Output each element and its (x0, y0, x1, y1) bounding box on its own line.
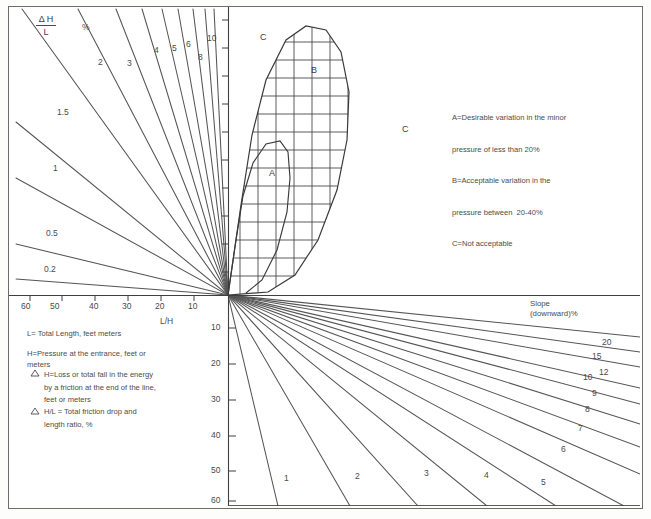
slope-heading-line1: Slope (530, 299, 550, 309)
y-tick-10: 10 (211, 322, 220, 332)
ray-label-6: 6 (186, 39, 191, 49)
slope-label-4: 4 (484, 470, 489, 480)
slope-label-7: 7 (578, 423, 583, 433)
criteria-note-line-1: A=Desirable variation in the minor (452, 113, 612, 124)
criteria-note-line-5: C=Not acceptable (452, 239, 612, 250)
legend-line-H-1: H=Pressure at the entrance, feet or (27, 348, 146, 359)
ray-label-0-2: 0.2 (44, 264, 56, 274)
y-tick-50: 50 (211, 465, 220, 475)
ray-label-4: 4 (154, 45, 159, 55)
legend-line-dH-2: by a friction at the end of the line, (44, 382, 156, 393)
criteria-note: A=Desirable variation in the minor press… (452, 92, 612, 271)
y-axis-label-fraction: Δ H L (36, 14, 56, 37)
y-axis-numerator: Δ H (36, 14, 56, 24)
slope-label-9: 9 (592, 388, 597, 398)
legend-line-dH-3: feet or meters (44, 394, 91, 405)
criteria-note-line-4: pressure between 20-40% (452, 208, 612, 219)
y-axis-denominator: L (36, 27, 56, 37)
slope-label-3: 3 (424, 468, 429, 478)
slope-label-20: 20 (602, 337, 611, 347)
slope-label-12: 12 (599, 367, 608, 377)
nomograph-page: Δ H L % 0.2 0.5 1 1.5 2 3 4 5 6 8 10 60 … (0, 0, 651, 519)
zone-label-a: A (269, 168, 275, 178)
zone-label-c-right: C (402, 124, 409, 134)
slope-label-2: 2 (355, 471, 360, 481)
y-tick-30: 30 (211, 394, 220, 404)
legend-line-ratio-1: H/L = Total friction drop and (44, 406, 137, 417)
ray-label-0-5: 0.5 (46, 228, 58, 238)
ray-label-5: 5 (172, 43, 177, 53)
x-axis-label: L/H (160, 316, 173, 326)
x-tick-60: 60 (21, 301, 30, 311)
x-tick-50: 50 (50, 301, 59, 311)
ray-label-3: 3 (127, 58, 132, 68)
zone-outline-A (228, 141, 290, 295)
ray-label-1: 1 (53, 163, 58, 173)
x-tick-20: 20 (155, 301, 164, 311)
x-tick-40: 40 (89, 301, 98, 311)
x-tick-30: 30 (122, 301, 131, 311)
y-axis-unit-percent: % (82, 22, 90, 32)
lower-right-ray-family (228, 295, 640, 506)
lower-right-axis-ticks (228, 328, 236, 501)
zone-label-b: B (311, 65, 317, 75)
slope-label-10: 10 (583, 372, 592, 382)
slope-label-8: 8 (585, 404, 590, 414)
legend-line-ratio-2: length ratio, % (44, 419, 93, 430)
criteria-note-line-3: B=Acceptable variation in the (452, 176, 612, 187)
ray-label-1-5: 1.5 (57, 107, 69, 117)
ray-label-10: 10 (207, 33, 216, 43)
upper-left-ray-family (16, 9, 228, 295)
legend-line-L: L= Total Length, feet meters (27, 328, 121, 339)
criteria-note-line-2: pressure of less than 20% (452, 145, 612, 156)
slope-label-1: 1 (284, 473, 289, 483)
ray-label-8: 8 (198, 52, 203, 62)
legend-line-dH-1: H=Loss or total fall in the energy (44, 369, 153, 380)
slope-label-6: 6 (561, 444, 566, 454)
delta-triangle-icon-1 (30, 369, 40, 377)
y-tick-40: 40 (211, 430, 220, 440)
slope-heading-line2: (downward)% (530, 309, 578, 319)
delta-triangle-icon-2 (30, 407, 40, 415)
y-tick-20: 20 (211, 358, 220, 368)
x-tick-10: 10 (188, 301, 197, 311)
zone-label-c-top: C (260, 32, 267, 42)
slope-label-5: 5 (541, 477, 546, 487)
slope-label-15: 15 (592, 351, 601, 361)
fraction-bar (36, 25, 56, 26)
y-tick-60: 60 (211, 495, 220, 505)
ray-label-2: 2 (98, 57, 103, 67)
